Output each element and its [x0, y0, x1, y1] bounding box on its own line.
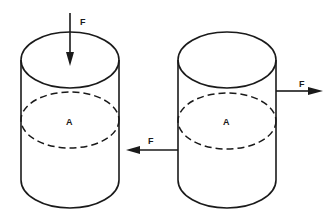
left-cylinder-bottom-edge — [21, 180, 119, 208]
left-side-force-label: F — [148, 136, 154, 146]
right-side-force-label: F — [299, 79, 305, 89]
arrowhead-left-icon — [126, 146, 140, 154]
right-side-force-arrow: F — [276, 79, 323, 95]
left-down-force-label: F — [80, 17, 86, 27]
stress-diagram: A F F A F — [0, 0, 335, 221]
left-cross-section-label: A — [66, 117, 73, 127]
arrowhead-right-icon — [308, 87, 323, 95]
right-cylinder: A — [178, 32, 276, 208]
left-side-force-arrow: F — [126, 136, 178, 154]
right-cylinder-bottom-edge — [178, 180, 276, 208]
left-down-force-arrow: F — [66, 13, 86, 66]
right-cross-section-label: A — [223, 117, 230, 127]
arrowhead-down-icon — [66, 52, 74, 66]
right-cylinder-top-face — [178, 32, 276, 88]
